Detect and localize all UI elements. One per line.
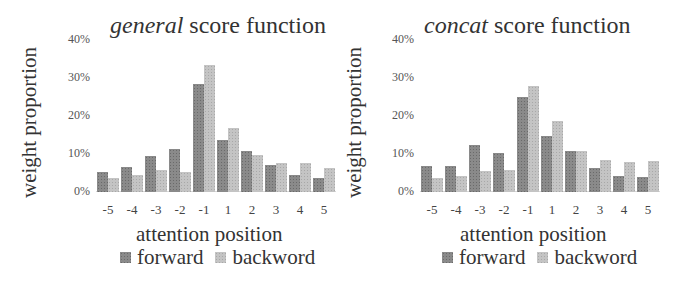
y-tick-label: 0% [380,184,414,199]
bar-group [144,40,168,192]
y-axis-label: weight proportion [342,38,367,208]
legend: forwardbackword [120,245,327,270]
plot-area [96,40,336,192]
chart-title-rest: score function [488,12,631,38]
bar-backword [132,175,143,192]
bar-group [420,40,444,192]
chart-title: concat score function [424,12,631,39]
bar-backword [480,171,491,192]
bar-group [288,40,312,192]
bar-group [540,40,564,192]
legend-item-backword: backword [215,245,315,270]
y-tick-label: 10% [380,146,414,161]
legend-label: forward [459,245,525,270]
legend-item-forward: forward [442,245,525,270]
bar-group [564,40,588,192]
bar-backword [504,170,515,192]
bar-forward [169,149,180,192]
chart-title-italic: general [110,12,183,38]
bar-group [468,40,492,192]
x-tick-label: 5 [309,202,339,218]
legend-swatch-icon [120,252,131,263]
bar-forward [517,97,528,192]
bar-group [492,40,516,192]
bar-backword [252,155,263,192]
bar-forward [637,177,648,192]
bar-group [612,40,636,192]
y-tick-label: 0% [56,184,90,199]
legend-swatch-icon [537,252,548,263]
bar-backword [324,168,335,192]
legend-label: forward [137,245,203,270]
legend-item-forward: forward [120,245,203,270]
bar-backword [276,163,287,192]
bar-group [636,40,660,192]
bar-backword [600,160,611,192]
y-tick-label: 40% [380,32,414,47]
bar-group [312,40,336,192]
bar-forward [217,140,228,192]
bar-backword [552,121,563,192]
bar-forward [469,145,480,192]
bar-forward [493,153,504,192]
bar-backword [648,161,659,192]
x-axis-label: attention position [460,222,606,247]
y-tick-label: 40% [56,32,90,47]
bar-forward [421,166,432,192]
y-axis-label: weight proportion [17,38,42,208]
bar-backword [528,86,539,192]
bar-forward [613,176,624,192]
bar-forward [265,165,276,192]
bar-group [168,40,192,192]
chart-title: general score function [110,12,326,39]
bar-forward [289,175,300,192]
bar-backword [624,162,635,192]
y-tick-label: 30% [380,70,414,85]
legend-swatch-icon [215,252,226,263]
legend-label: backword [232,245,315,270]
x-tick-label: 5 [633,202,663,218]
bar-backword [204,65,215,192]
bar-forward [97,172,108,192]
plot-area [420,40,660,192]
legend: forwardbackword [442,245,649,270]
chart-title-italic: concat [424,12,488,38]
chart-title-rest: score function [183,12,326,38]
bar-forward [121,167,132,192]
legend-item-backword: backword [537,245,637,270]
bar-group [96,40,120,192]
bar-forward [313,178,324,192]
bar-backword [108,178,119,192]
y-tick-label: 20% [56,108,90,123]
chart-concat: concat score function weight proportion … [344,0,688,286]
bar-group [120,40,144,192]
bar-forward [241,151,252,192]
legend-swatch-icon [442,252,453,263]
bar-backword [432,178,443,192]
bar-backword [180,172,191,192]
chart-general: general score function weight proportion… [0,0,344,286]
bar-group [588,40,612,192]
bar-backword [576,151,587,192]
bar-group [516,40,540,192]
bar-backword [156,170,167,192]
bar-forward [589,168,600,192]
bar-backword [456,176,467,192]
y-tick-label: 10% [56,146,90,161]
bar-group [240,40,264,192]
bar-group [444,40,468,192]
legend-label: backword [554,245,637,270]
x-axis-label: attention position [136,222,282,247]
bar-forward [193,84,204,192]
y-tick-label: 30% [56,70,90,85]
bar-forward [445,166,456,192]
bar-backword [228,128,239,192]
bar-group [192,40,216,192]
y-tick-label: 20% [380,108,414,123]
bar-forward [145,156,156,192]
bar-group [216,40,240,192]
bar-forward [541,136,552,192]
bar-backword [300,163,311,192]
bar-forward [565,151,576,192]
bar-group [264,40,288,192]
